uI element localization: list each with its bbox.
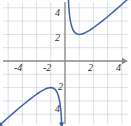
y-axis-tick-label-pos2: 2 (55, 33, 60, 43)
graph-figure: -4 -2 2 4 4 2 2 4 (0, 0, 131, 126)
x-axis-arrowhead (122, 58, 128, 64)
y-axis-tick-label-pos4: 4 (55, 8, 60, 18)
y-axis-tick-label-neg2: 2 (58, 82, 63, 92)
x-axis-tick-label-pos2: 2 (88, 63, 93, 73)
y-axis-tick-label-neg4: 4 (55, 104, 60, 114)
x-axis-tick-label-pos4: 4 (116, 63, 121, 73)
curve-arrowhead-end (59, 122, 64, 126)
curve-left-branch (0, 88, 62, 126)
x-axis-tick-label-neg4: -4 (14, 63, 22, 73)
x-axis-tick-label-neg2: -2 (43, 63, 51, 73)
